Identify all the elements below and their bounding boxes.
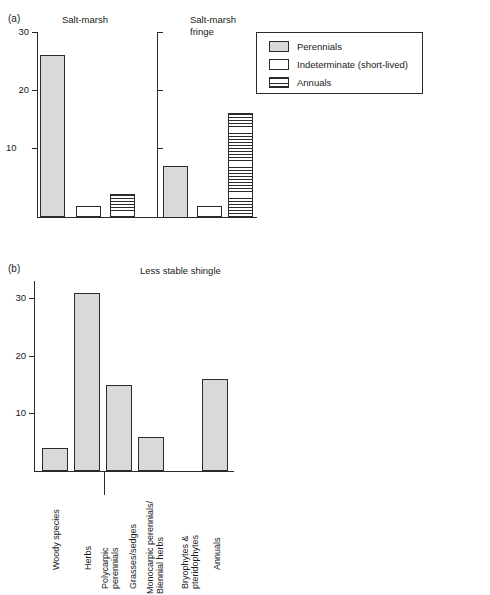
bar-lss-woody-species [42,448,68,471]
legend-item-perennials: Perennials [269,41,342,52]
cat-label-lss-polycarpic-perennials: Polycarpic perennials [100,547,120,589]
y-tick-b-left-30 [29,298,34,299]
panel-b-stable-shingle: Stable shingle 30 20 10 Woody species He… [245,255,490,595]
bar-lss-grasses-sedges [106,385,132,471]
cat-label-lss-grasses-sedges: Grasses/sedges [128,524,138,589]
cat-label-lss-woody-species: Woody species [51,509,61,570]
cat-label-lss-monocarpic-biennial: Monocarpic perennials/ Biennial herbs [145,501,165,594]
legend-label-annuals: Annuals [297,77,331,88]
y-tick-b-left-10 [29,413,34,414]
legend-label-perennials: Perennials [297,41,342,52]
bar-lss-monocarpic-biennial [138,437,164,472]
legend: Perennials Indeterminate (short-lived) A… [256,32,423,94]
legend-item-annuals: Annuals [269,77,331,88]
panel-b-less-stable-shingle: (b) Less stable shingle 30 20 10 Woody s… [0,0,245,340]
y-axis-b-left [34,281,35,471]
bar-lss-annuals [202,379,228,471]
chart-title-less-stable-shingle: Less stable shingle [140,265,221,277]
cat-label-lss-annuals: Annuals [212,537,222,570]
y-tick-label-b-left-30: 30 [3,293,26,302]
x-axis-b-left [34,471,234,472]
legend-item-indeterminate: Indeterminate (short-lived) [269,59,408,70]
panel-b-label: (b) [8,263,20,274]
y-tick-label-b-left-20: 20 [3,351,26,360]
y-tick-label-b-left-10: 10 [3,408,26,417]
legend-swatch-indeterminate [269,59,289,70]
legend-label-indeterminate: Indeterminate (short-lived) [297,59,408,70]
legend-swatch-perennials [269,41,289,52]
bar-lss-herbs [74,293,100,472]
cat-label-lss-bryophytes-pteridophytes: Bryophytes & pteridophytes [180,535,200,589]
legend-swatch-annuals [269,77,289,88]
y-tick-b-left-20 [29,356,34,357]
cat-label-lss-herbs: Herbs [83,546,93,570]
polycarpic-leader-line [104,471,105,495]
